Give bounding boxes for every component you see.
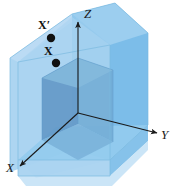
point-x-prime-marker — [47, 34, 55, 42]
y-axis-label: Y — [161, 128, 168, 141]
base-slab-front-left — [18, 160, 110, 176]
point-x-label: X — [44, 45, 53, 57]
point-x-prime-label: X′ — [38, 19, 50, 31]
z-axis-label: Z — [84, 7, 91, 20]
figure-canvas — [0, 0, 179, 193]
point-x-marker — [52, 59, 60, 67]
figure-3d-prism: Z Y X X′ X — [0, 0, 179, 193]
x-axis-label: X — [6, 161, 14, 174]
